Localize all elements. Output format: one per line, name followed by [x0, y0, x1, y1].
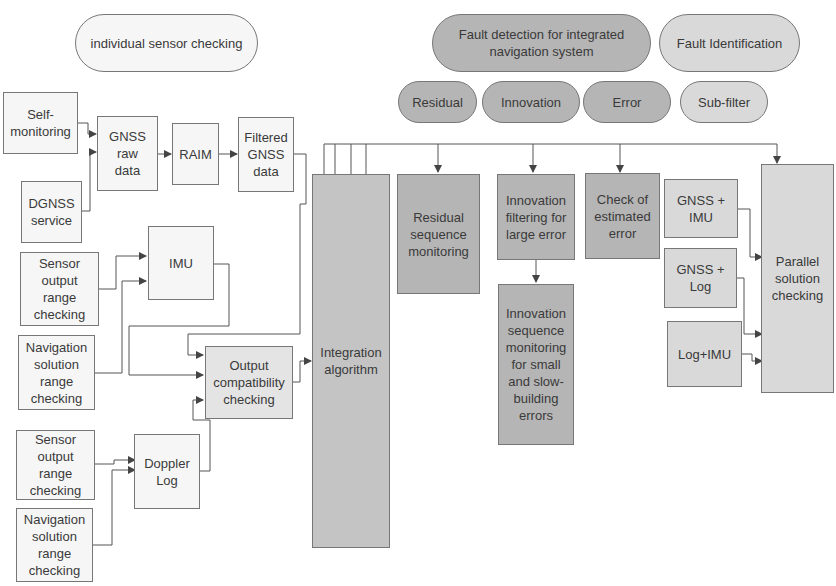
node-label: DGNSS service [28, 195, 74, 229]
node-parallel-solution-checking: Parallel solution checking [761, 164, 834, 393]
node-label: Output compatibility checking [213, 357, 285, 408]
node-filtered-gnss-data: Filtered GNSS data [238, 117, 294, 192]
node-innovation-filtering: Innovation filtering for large error [497, 174, 575, 260]
node-label: Navigation solution range checking [24, 511, 85, 579]
node-gnss-imu: GNSS + IMU [664, 179, 738, 238]
category-fault-detection: Fault detection for integrated navigatio… [432, 14, 651, 72]
subcategory-innovation: Innovation [482, 81, 580, 123]
node-dgnss-service: DGNSS service [21, 181, 82, 243]
category-label: individual sensor checking [91, 35, 243, 52]
subcategory-subfilter: Sub-filter [680, 81, 768, 123]
node-label: GNSS + IMU [677, 192, 725, 226]
node-imu: IMU [148, 226, 214, 300]
node-sensor-output-range-checking-log: Sensor output range checking [16, 430, 95, 500]
node-label: Innovation sequence monitoring for small… [506, 305, 567, 424]
category-label: Fault detection for integrated navigatio… [459, 26, 625, 60]
node-label: GNSS raw data [109, 128, 146, 179]
node-output-compatibility-checking: Output compatibility checking [205, 346, 293, 419]
subcategory-label: Error [613, 94, 642, 111]
node-integration-algorithm: Integration algorithm [312, 174, 390, 548]
subcategory-label: Innovation [501, 94, 561, 111]
node-sensor-output-range-checking-imu: Sensor output range checking [20, 252, 99, 326]
node-navigation-solution-range-checking-imu: Navigation solution range checking [18, 335, 95, 410]
node-gnss-raw-data: GNSS raw data [97, 116, 158, 191]
node-label: Innovation filtering for large error [506, 192, 567, 243]
node-label: Residual sequence monitoring [408, 209, 469, 260]
node-innovation-sequence-monitoring: Innovation sequence monitoring for small… [498, 284, 574, 445]
node-residual-sequence-monitoring: Residual sequence monitoring [397, 174, 480, 294]
node-label: Doppler Log [144, 455, 190, 489]
node-log-imu: Log+IMU [667, 321, 742, 387]
node-check-estimated-error: Check of estimated error [585, 173, 660, 259]
node-navigation-solution-range-checking-log: Navigation solution range checking [16, 508, 93, 582]
node-label: Navigation solution range checking [26, 339, 87, 407]
node-raim: RAIM [172, 123, 219, 185]
node-label: Log+IMU [678, 346, 731, 363]
subcategory-error: Error [583, 81, 671, 123]
fault-detection-diagram: individual sensor checking Fault detecti… [0, 0, 836, 586]
node-gnss-log: GNSS + Log [664, 248, 737, 308]
node-label: RAIM [179, 146, 212, 163]
node-label: Check of estimated error [594, 191, 650, 242]
node-label: Sensor output range checking [30, 431, 81, 499]
node-label: IMU [169, 255, 193, 272]
node-label: Integration algorithm [320, 344, 381, 378]
node-label: Sensor output range checking [34, 255, 85, 323]
node-self-monitoring: Self- monitoring [3, 92, 78, 154]
subcategory-label: Sub-filter [698, 94, 750, 111]
node-doppler-log: Doppler Log [134, 434, 200, 509]
node-label: GNSS + Log [676, 261, 724, 295]
subcategory-label: Residual [412, 94, 463, 111]
node-label: Parallel solution checking [772, 253, 823, 304]
node-label: Self- monitoring [10, 106, 71, 140]
category-fault-identification: Fault Identification [659, 14, 800, 72]
category-label: Fault Identification [677, 35, 783, 52]
category-individual-sensor-checking: individual sensor checking [75, 14, 258, 72]
subcategory-residual: Residual [398, 81, 477, 123]
node-label: Filtered GNSS data [244, 129, 287, 180]
